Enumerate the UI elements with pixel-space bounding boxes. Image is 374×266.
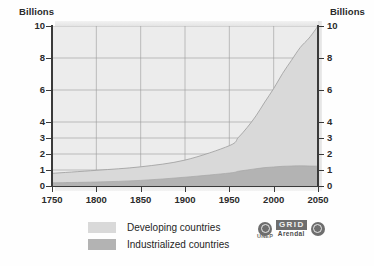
legend-item-2: Industrialized countries <box>88 236 229 253</box>
y-tick-label-right-8: 8 <box>327 53 332 63</box>
y-tick-left-2 <box>46 154 52 155</box>
x-tick-label-1950: 1950 <box>219 194 240 205</box>
x-tick-label-1800: 1800 <box>86 194 107 205</box>
chart-legend: Developing countriesIndustrialized count… <box>88 219 229 253</box>
y-tick-left-8 <box>46 58 52 59</box>
x-tick-1950 <box>229 187 230 192</box>
x-tick-label-2050: 2050 <box>307 194 328 205</box>
grid-logo-sublabel: Arendal <box>278 231 305 238</box>
y-tick-label-left-2: 2 <box>40 149 45 159</box>
x-tick-1800 <box>96 187 97 192</box>
x-tick-label-1900: 1900 <box>174 194 195 205</box>
y-tick-left-6 <box>46 90 52 91</box>
x-tick-label-1850: 1850 <box>130 194 151 205</box>
plot-bevel-right <box>318 21 322 186</box>
x-tick-label-1750: 1750 <box>41 194 62 205</box>
y-tick-label-right-3: 3 <box>327 133 332 143</box>
unep-logo-sublabel: UNEP <box>257 233 273 239</box>
y-tick-left-3 <box>46 138 52 139</box>
y-tick-left-10 <box>46 26 52 27</box>
x-tick-2050 <box>318 187 319 192</box>
y-tick-label-right-6: 6 <box>327 85 332 95</box>
population-growth-chart: Billions Billions Developing countriesIn… <box>0 0 374 266</box>
y-axis-left-line <box>51 25 53 187</box>
y-tick-label-left-10: 10 <box>34 21 45 31</box>
legend-item-1: Developing countries <box>88 219 229 236</box>
right-axis-units-label: Billions <box>330 6 365 17</box>
legend-swatch-industrialized <box>88 239 116 250</box>
legend-label-2: Industrialized countries <box>127 239 229 250</box>
grid-arendal-logo: GRID Arendal <box>276 220 307 238</box>
y-axis-right-line <box>317 25 319 187</box>
y-tick-label-left-3: 3 <box>40 133 45 143</box>
y-tick-right-8 <box>318 58 324 59</box>
x-tick-1750 <box>52 187 53 192</box>
x-tick-1850 <box>141 187 142 192</box>
un-logo-icon <box>311 222 325 236</box>
y-tick-right-4 <box>318 122 324 123</box>
y-tick-label-right-4: 4 <box>327 117 332 127</box>
chart-canvas <box>52 26 318 186</box>
y-tick-label-right-2: 2 <box>327 149 332 159</box>
y-tick-right-3 <box>318 138 324 139</box>
y-tick-left-4 <box>46 122 52 123</box>
y-tick-label-left-0: 0 <box>40 181 45 191</box>
y-tick-right-2 <box>318 154 324 155</box>
y-tick-label-right-10: 10 <box>327 21 338 31</box>
y-tick-label-left-6: 6 <box>40 85 45 95</box>
x-tick-label-2000: 2000 <box>263 194 284 205</box>
y-tick-right-6 <box>318 90 324 91</box>
y-tick-left-1 <box>46 170 52 171</box>
y-tick-label-right-0: 0 <box>327 181 332 191</box>
x-tick-1900 <box>185 187 186 192</box>
y-tick-label-left-4: 4 <box>40 117 45 127</box>
y-tick-label-left-1: 1 <box>40 165 45 175</box>
y-tick-label-right-1: 1 <box>327 165 332 175</box>
legend-swatch-developing <box>88 222 116 233</box>
legend-label-1: Developing countries <box>127 222 220 233</box>
left-axis-units-label: Billions <box>19 6 54 17</box>
plot-area <box>52 26 318 186</box>
y-tick-label-left-8: 8 <box>40 53 45 63</box>
y-tick-right-1 <box>318 170 324 171</box>
x-tick-2000 <box>274 187 275 192</box>
grid-logo-letters: GRID <box>276 220 307 230</box>
y-tick-right-10 <box>318 26 324 27</box>
